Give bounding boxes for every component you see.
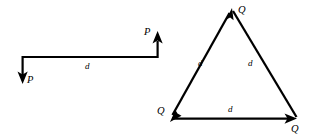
right-force-label-P: P xyxy=(144,27,150,38)
figure-canvas: P P d Q Q Q d d d xyxy=(0,0,313,139)
triangle-bottom-right-vertex-label-Q: Q xyxy=(291,124,299,135)
couple-distance-label-d: d xyxy=(85,62,90,71)
triangle-top-vertex-label-Q: Q xyxy=(238,5,246,16)
bottom-left-vertex-arrowhead-icon xyxy=(170,110,182,122)
triangle-left-side-label-d: d xyxy=(198,59,203,68)
triangle-right-side-shaft xyxy=(233,11,297,117)
triangle-bottom-left-vertex-label-Q: Q xyxy=(157,106,165,117)
figure-vector-graphics xyxy=(0,0,313,139)
left-force-label-P: P xyxy=(27,75,33,86)
triangle-bottom-side-label-d: d xyxy=(228,105,233,114)
triangle-right-side-label-d: d xyxy=(248,59,253,68)
top-vertex-arrowhead-icon xyxy=(226,8,234,20)
couple-figure-group xyxy=(18,31,163,84)
triangle-figure-group xyxy=(170,8,297,124)
